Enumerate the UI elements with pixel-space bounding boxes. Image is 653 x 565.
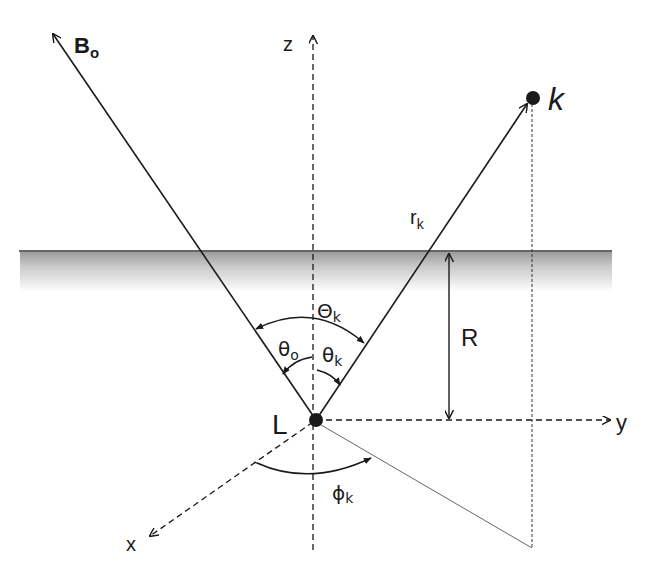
phi_k-label: ϕk [332,481,354,506]
theta_k-label: θk [322,343,343,369]
R-label: R [461,324,478,351]
b0-label: Bo [74,33,99,61]
point-k-label: k [548,81,566,117]
point-L-label: L [272,409,288,440]
rk-label: rk [410,206,425,232]
x-axis-label: x [126,533,136,555]
z-axis-label: z [283,33,293,55]
k-projection-ground [316,422,532,548]
point-k [526,91,540,105]
point-L [309,413,323,427]
Theta_k-label: Θk [317,299,342,325]
diagram-canvas: Bo z y x k L rk R Θk θo θk ϕk [0,0,653,565]
surface-shading [20,252,612,292]
theta_o-label: θo [278,337,299,363]
x-axis [150,422,313,536]
y-axis-label: y [616,410,627,435]
Theta_k-angle-arc [256,317,364,343]
phi_k-angle-arc [257,458,371,474]
b0-vector [53,34,316,420]
theta_k-angle-arc [317,370,340,385]
